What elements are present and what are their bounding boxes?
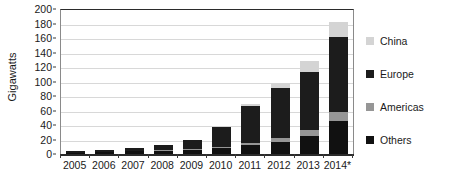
x-axis-tick-label: 2012 [267,160,290,171]
bar-segment-europe[interactable] [212,127,231,147]
y-axis-tick-mark [53,139,56,140]
x-axis-tick-label: 2008 [151,160,174,171]
legend-label: China [380,36,407,47]
legend-item-others[interactable]: Others [366,135,412,146]
y-axis-tick-mark [53,81,56,82]
legend-swatch-icon [366,37,374,45]
bar[interactable] [241,104,260,155]
x-axis-tick-mark [60,154,61,158]
x-axis-tick-mark [118,154,119,158]
x-axis-tick-mark [264,154,265,158]
legend-item-china[interactable]: China [366,36,407,47]
bar-segment-europe[interactable] [300,72,319,130]
legend-label: Others [380,135,412,146]
bar-segment-others[interactable] [300,136,319,155]
legend-swatch-icon [366,70,374,78]
bar[interactable] [271,83,290,155]
bar-segment-china[interactable] [300,61,319,72]
stacked-bar-chart: Gigawatts 020406080100120140160180200 20… [0,0,453,188]
x-axis-tick-mark [89,154,90,158]
plot-area [60,9,354,155]
y-axis-tick-mark [53,38,56,39]
chart-legend: ChinaEuropeAmericasOthers [366,36,452,154]
y-axis-tick-label: 0 [46,149,52,160]
x-axis-tick-mark [148,154,149,158]
bar-segment-europe[interactable] [271,88,290,139]
legend-label: Americas [380,102,424,113]
legend-swatch-icon [366,103,374,111]
bar-segment-americas[interactable] [329,112,348,121]
x-axis-tick-mark [352,154,353,158]
y-axis-tick-label: 20 [40,134,52,145]
y-axis-tick-label: 160 [34,33,52,44]
bar[interactable] [329,22,348,155]
x-axis-tick-labels: 2005200620072008200920102011201220132014… [60,154,354,188]
bar-group [61,10,353,155]
y-axis-tick-label: 40 [40,120,52,131]
x-axis-tick-label: 2014* [324,160,351,171]
bar-segment-europe[interactable] [329,37,348,112]
x-axis-tick-mark [177,154,178,158]
x-axis-tick-label: 2005 [63,160,86,171]
y-axis-tick-label: 120 [34,62,52,73]
x-axis-tick-mark [206,154,207,158]
x-axis-tick-label: 2011 [239,160,262,171]
legend-label: Europe [380,69,414,80]
y-axis-tick-label: 60 [40,105,52,116]
legend-item-americas[interactable]: Americas [366,102,424,113]
x-axis-tick-label: 2013 [297,160,320,171]
bar-segment-europe[interactable] [241,106,260,142]
legend-item-europe[interactable]: Europe [366,69,414,80]
y-axis-tick-mark [53,96,56,97]
y-axis-tick-mark [53,52,56,53]
y-axis-tick-label: 140 [34,47,52,58]
x-axis-tick-label: 2007 [121,160,144,171]
bar[interactable] [212,126,231,155]
y-axis-tick-mark [53,110,56,111]
x-axis-tick-mark [323,154,324,158]
y-axis-tick-label: 200 [34,4,52,15]
bar-segment-china[interactable] [329,22,348,37]
x-axis-tick-label: 2006 [92,160,115,171]
y-axis-tick-label: 80 [40,91,52,102]
y-axis-tick-mark [53,9,56,10]
bar-segment-others[interactable] [329,121,348,155]
y-axis-tick-mark [53,125,56,126]
x-axis-tick-label: 2009 [180,160,203,171]
x-axis-tick-label: 2010 [209,160,232,171]
bar[interactable] [183,140,202,155]
y-axis-tick-mark [53,23,56,24]
y-axis-tick-label: 100 [34,76,52,87]
y-axis-tick-label: 180 [34,18,52,29]
x-axis-tick-mark [235,154,236,158]
y-axis-tick-labels: 020406080100120140160180200 [16,0,56,160]
bar-segment-europe[interactable] [183,140,202,149]
bar[interactable] [300,61,319,155]
legend-swatch-icon [366,136,374,144]
y-axis-tick-mark [53,67,56,68]
y-axis-tick-mark [53,154,56,155]
x-axis-tick-mark [294,154,295,158]
